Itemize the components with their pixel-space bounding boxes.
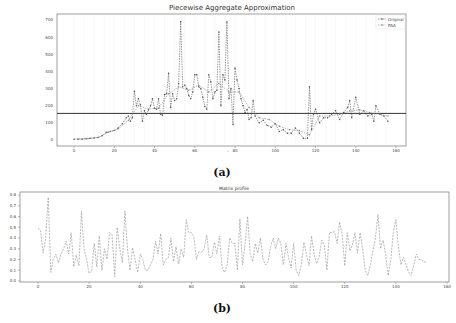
data-point <box>242 105 244 107</box>
data-point <box>347 107 349 109</box>
paa-chart: Piecewise Aggregate Approximation 010020… <box>45 4 406 179</box>
data-point <box>206 108 208 110</box>
y-tick-label: 0.6 <box>10 214 17 219</box>
matrix-profile-line <box>38 197 427 277</box>
y-tick-label: 0.7 <box>10 203 17 208</box>
data-point <box>258 117 260 119</box>
y-tick-label: 500 <box>45 52 53 57</box>
data-point <box>128 120 130 122</box>
data-point <box>319 122 321 124</box>
data-point <box>166 93 168 95</box>
data-point <box>309 86 311 88</box>
data-point <box>150 105 152 107</box>
data-point <box>192 91 194 93</box>
paa-chart-title: Piecewise Aggregate Approximation <box>169 4 295 12</box>
matrix-profile-frame <box>20 192 449 282</box>
data-point <box>248 107 250 109</box>
data-point <box>77 138 79 140</box>
x-tick-label: 0 <box>37 284 40 289</box>
data-point <box>355 96 357 98</box>
x-tick-label: 80 <box>240 284 246 289</box>
data-point <box>146 114 148 116</box>
data-point <box>262 120 264 122</box>
data-point <box>152 98 154 100</box>
data-point <box>339 114 341 116</box>
data-point <box>184 84 186 86</box>
data-point <box>351 117 353 119</box>
data-point <box>254 115 256 117</box>
y-tick-label: 0.4 <box>10 235 17 240</box>
data-point <box>266 125 268 127</box>
data-point <box>204 106 206 108</box>
data-point <box>210 81 212 83</box>
data-point <box>329 115 331 117</box>
data-point <box>130 120 132 122</box>
data-point <box>118 128 120 130</box>
data-point <box>138 105 140 107</box>
data-point <box>359 114 361 116</box>
data-point <box>371 114 373 116</box>
data-point <box>289 129 291 131</box>
data-point <box>162 114 164 116</box>
data-point <box>128 115 130 117</box>
data-point <box>158 108 160 110</box>
y-tick-label: 0.8 <box>10 192 17 197</box>
data-point <box>218 83 220 85</box>
x-tick-label: 160 <box>443 284 451 289</box>
data-point <box>339 119 341 121</box>
x-tick-label: 60 <box>189 284 195 289</box>
data-point <box>331 114 333 116</box>
data-point <box>73 138 75 140</box>
data-point <box>375 105 377 107</box>
data-point <box>144 110 146 112</box>
data-point <box>182 86 184 88</box>
x-tick-label: 60 <box>192 148 198 153</box>
data-point <box>250 117 252 119</box>
data-point <box>309 134 311 136</box>
data-point <box>236 79 238 81</box>
x-tick-label: 120 <box>341 284 349 289</box>
data-point <box>279 126 281 128</box>
data-point <box>270 126 272 128</box>
data-point <box>218 31 220 33</box>
data-point <box>299 132 301 134</box>
data-point <box>359 109 361 111</box>
data-point <box>226 21 228 23</box>
data-point <box>172 93 174 95</box>
paa-legend: Original PAA <box>376 15 405 29</box>
data-point <box>208 91 210 93</box>
x-tick-label: 140 <box>352 148 360 153</box>
data-point <box>238 91 240 93</box>
data-point <box>287 132 289 134</box>
data-point <box>188 95 190 97</box>
data-point <box>327 117 329 119</box>
y-tick-label: 0.0 <box>10 278 17 283</box>
matrix-profile-series <box>38 197 427 277</box>
data-point <box>311 129 313 131</box>
data-point <box>142 120 144 122</box>
x-axis-label-mark: – <box>227 149 229 154</box>
data-point <box>170 107 172 109</box>
data-point <box>196 74 198 76</box>
figure: Piecewise Aggregate Approximation 010020… <box>0 0 456 323</box>
data-point <box>258 122 260 124</box>
data-point <box>178 86 180 88</box>
x-tick-label: 100 <box>271 148 279 153</box>
data-point <box>246 108 248 110</box>
y-tick-label: 0.1 <box>10 268 17 273</box>
data-point <box>387 115 389 117</box>
data-point <box>126 117 128 119</box>
data-point <box>134 90 136 92</box>
y-tick-label: 0.2 <box>10 257 17 262</box>
data-point <box>176 98 178 100</box>
data-point <box>369 112 371 114</box>
x-tick-label: 140 <box>392 284 400 289</box>
matrix-profile-x-axis: 020406080100120140160 <box>37 282 452 289</box>
data-point <box>180 21 182 23</box>
data-point <box>283 129 285 131</box>
data-point <box>315 108 317 110</box>
data-point <box>220 105 222 107</box>
data-point <box>367 115 369 117</box>
matrix-profile-title: Matrix profile <box>219 186 249 191</box>
y-tick-label: 0 <box>50 137 53 142</box>
